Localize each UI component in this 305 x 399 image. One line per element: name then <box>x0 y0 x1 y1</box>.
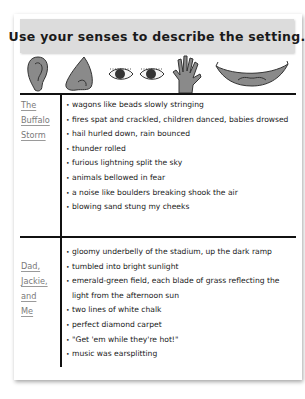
list-item: a noise like boulders breaking shook the… <box>66 186 298 201</box>
section-label: The Buffalo Storm <box>21 98 61 143</box>
section-rule <box>20 236 296 238</box>
nose-icon <box>64 56 94 92</box>
sense-icons-row <box>14 54 302 94</box>
section-label: Dad, Jackie, and Me <box>21 259 61 319</box>
list-item: furious lightning split the sky <box>66 156 298 171</box>
list-item: hail hurled down, rain bounced <box>66 127 298 142</box>
list-item: wagons like beads slowly stringing <box>66 98 298 113</box>
list-item: gloomy underbelly of the stadium, up the… <box>66 245 298 260</box>
worksheet-card: Use your senses to describe the setting. <box>14 14 302 380</box>
list-item: animals bellowed in fear <box>66 171 298 186</box>
list-item: two lines of white chalk <box>66 303 298 318</box>
eyes-icon <box>108 64 166 84</box>
ear-icon <box>26 56 50 92</box>
worksheet-title: Use your senses to describe the setting. <box>20 19 294 53</box>
list-item: "Get 'em while they're hot!" <box>66 333 298 348</box>
detail-list: wagons like beads slowly stringing fires… <box>66 98 298 215</box>
title-band: Use your senses to describe the setting. <box>20 19 294 53</box>
list-item: tumbled into bright sunlight <box>66 260 298 275</box>
hand-icon <box>171 54 203 94</box>
mouth-icon <box>214 60 290 88</box>
detail-list: gloomy underbelly of the stadium, up the… <box>66 245 298 362</box>
list-item: emerald-green field, each blade of grass… <box>66 274 298 303</box>
list-item: music was earsplitting <box>66 347 298 362</box>
list-item: thunder rolled <box>66 142 298 157</box>
list-item: blowing sand stung my cheeks <box>66 200 298 215</box>
list-item: perfect diamond carpet <box>66 318 298 333</box>
list-item: fires spat and crackled, children danced… <box>66 113 298 128</box>
